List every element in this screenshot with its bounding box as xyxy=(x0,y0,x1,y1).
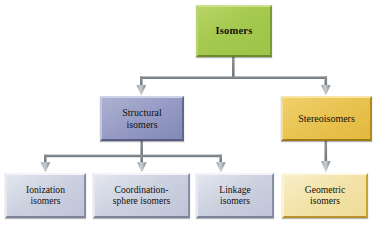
node-geometric-isomers-line1: Geometric xyxy=(305,184,346,195)
edge-root-to-stereoisomers xyxy=(321,76,331,95)
node-coordination-sphere-isomers[interactable]: Coordination- sphere isomers xyxy=(93,173,190,218)
node-ionization-isomers-line2: isomers xyxy=(31,195,61,206)
edge-structural-trunk xyxy=(44,141,222,157)
node-ionization-isomers-label: Ionization isomers xyxy=(23,185,68,206)
node-stereoisomers[interactable]: Stereoisomers xyxy=(281,96,372,141)
node-isomers-label: Isomers xyxy=(213,25,256,37)
node-isomers[interactable]: Isomers xyxy=(196,5,272,57)
edge-root-to-structural xyxy=(136,76,146,95)
diagram-canvas: Isomers Structural isomers Stereoisomers… xyxy=(0,0,375,237)
node-structural-isomers[interactable]: Structural isomers xyxy=(100,96,184,141)
node-ionization-isomers[interactable]: Ionization isomers xyxy=(5,173,86,218)
node-geometric-isomers-label: Geometric isomers xyxy=(302,185,349,206)
node-linkage-isomers[interactable]: Linkage isomers xyxy=(196,173,274,218)
edge-stereoisomers-to-geometric xyxy=(321,141,331,173)
node-structural-isomers-label: Structural isomers xyxy=(119,107,164,129)
node-linkage-isomers-line2: isomers xyxy=(220,195,250,206)
edge-root-trunk xyxy=(140,57,327,79)
node-coordination-sphere-isomers-line1: Coordination- xyxy=(115,184,169,195)
node-structural-isomers-line2: isomers xyxy=(126,119,157,130)
edge-structural-to-coordination xyxy=(137,155,147,173)
node-geometric-isomers[interactable]: Geometric isomers xyxy=(282,173,368,218)
node-linkage-isomers-label: Linkage isomers xyxy=(216,185,253,206)
node-stereoisomers-label: Stereoisomers xyxy=(295,113,358,124)
edge-structural-to-linkage xyxy=(216,155,226,173)
node-structural-isomers-line1: Structural xyxy=(122,107,161,118)
node-ionization-isomers-line1: Ionization xyxy=(26,184,65,195)
node-linkage-isomers-line1: Linkage xyxy=(219,184,250,195)
node-geometric-isomers-line2: isomers xyxy=(310,195,340,206)
edge-structural-to-ionization xyxy=(41,155,51,173)
node-coordination-sphere-isomers-line2: sphere isomers xyxy=(113,195,170,206)
node-coordination-sphere-isomers-label: Coordination- sphere isomers xyxy=(110,185,173,206)
